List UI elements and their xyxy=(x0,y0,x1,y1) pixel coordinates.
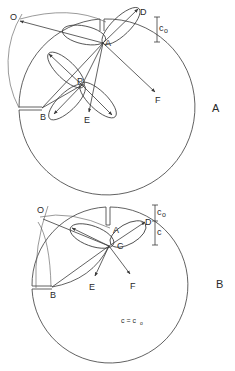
vector-ae xyxy=(89,43,103,112)
vector-p-right xyxy=(82,85,112,115)
ellipse-c-left xyxy=(67,219,117,254)
top-slot-b xyxy=(106,207,110,225)
panel-b: c o c O A C D E F B c = c o B xyxy=(32,205,223,363)
left-slot-a xyxy=(19,107,42,110)
label-f: F xyxy=(130,281,136,291)
label-b: B xyxy=(50,290,56,300)
svg-text:o: o xyxy=(140,320,143,326)
label-e: E xyxy=(89,282,95,292)
line-cb xyxy=(52,246,109,287)
label-d: D xyxy=(140,7,147,17)
diagram-canvas: c o O A D F P B E A xyxy=(0,0,235,371)
label-p: P xyxy=(77,76,83,86)
panel-label-a: A xyxy=(212,102,220,114)
dimension-c0-a: c o xyxy=(154,17,168,42)
label-a: A xyxy=(113,225,119,235)
dimension-c0-c-b: c o c xyxy=(152,205,166,245)
label-c: C xyxy=(117,241,124,251)
panel-label-b: B xyxy=(216,278,223,290)
vector-af xyxy=(103,43,155,92)
label-a: A xyxy=(105,38,111,48)
equation-label: c = c o xyxy=(121,317,143,326)
panel-a: c o O A D F P B E A xyxy=(8,2,220,195)
left-slot-b xyxy=(32,286,52,289)
label-e: E xyxy=(84,115,90,125)
svg-text:o: o xyxy=(164,27,168,34)
label-o: O xyxy=(10,12,17,22)
label-o: O xyxy=(37,205,44,215)
svg-text:o: o xyxy=(162,211,166,218)
label-b: B xyxy=(40,112,46,122)
line-ab xyxy=(42,43,103,108)
vector-ao xyxy=(20,21,103,43)
line-ap xyxy=(82,43,103,85)
label-d: D xyxy=(145,217,152,227)
svg-text:c: c xyxy=(157,227,162,237)
svg-text:c = c: c = c xyxy=(121,317,136,324)
label-f: F xyxy=(155,95,161,105)
